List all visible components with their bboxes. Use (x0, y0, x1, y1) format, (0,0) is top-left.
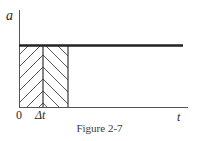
y-axis-label: a (6, 9, 13, 23)
kinematics-diagram (0, 0, 199, 141)
x-axis-label: t (177, 111, 180, 123)
figure-caption: Figure 2-7 (0, 123, 199, 134)
interval-label: Δt (35, 109, 45, 121)
origin-label: 0 (16, 109, 22, 121)
